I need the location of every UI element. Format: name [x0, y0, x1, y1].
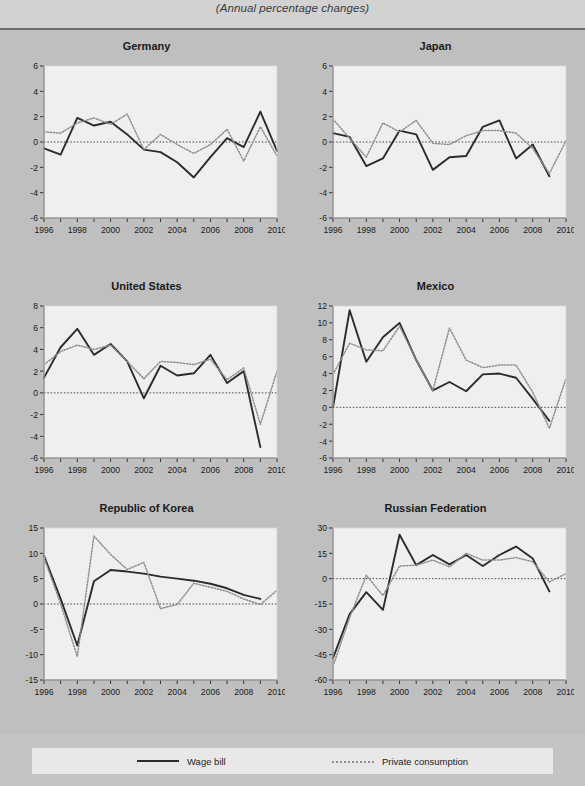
y-tick-label: 6	[33, 323, 38, 333]
x-tick-label: 1998	[357, 225, 376, 235]
x-tick-label: 1996	[323, 225, 342, 235]
x-tick-label: 2002	[134, 465, 153, 475]
x-tick-label: 2004	[168, 687, 187, 697]
panel-title-japan: Japan	[297, 40, 574, 52]
y-tick-label: 0	[33, 137, 38, 147]
y-tick-label: 0	[322, 574, 327, 584]
y-tick-label: -4	[319, 188, 327, 198]
y-tick-label: -5	[30, 625, 38, 635]
x-tick-label: 2008	[234, 465, 253, 475]
y-tick-label: 6	[322, 352, 327, 362]
x-tick-label: 2010	[267, 687, 285, 697]
y-tick-label: -45	[315, 650, 328, 660]
legend-band: Wage bill Private consumption	[0, 734, 585, 786]
chart-svg: -15-10-505101519961998200020022004200620…	[8, 520, 285, 710]
chart-svg: -6-4-20246199619982000200220042006200820…	[8, 58, 285, 248]
panel-title-russian-federation: Russian Federation	[297, 502, 574, 514]
y-tick-label: -60	[315, 675, 328, 685]
x-tick-label: 2008	[523, 687, 542, 697]
panel-russian-federation: Russian Federation -60-45-30-15015301996…	[297, 494, 574, 734]
x-tick-label: 2000	[101, 687, 120, 697]
y-tick-label: 0	[33, 388, 38, 398]
x-tick-label: 1998	[357, 465, 376, 475]
x-tick-label: 2006	[490, 687, 509, 697]
legend-box: Wage bill Private consumption	[32, 748, 553, 774]
panel-title-united-states: United States	[8, 280, 285, 292]
y-tick-label: -2	[319, 420, 327, 430]
panel-title-republic-of-korea: Republic of Korea	[8, 502, 285, 514]
chart-svg: -6-4-20246810121996199820002002200420062…	[297, 298, 574, 488]
x-tick-label: 1998	[68, 225, 87, 235]
x-tick-label: 2004	[168, 465, 187, 475]
dotted-line-icon	[332, 756, 374, 766]
x-tick-label: 2002	[134, 225, 153, 235]
x-tick-label: 2002	[423, 687, 442, 697]
panel-title-mexico: Mexico	[297, 280, 574, 292]
y-tick-label: -4	[319, 437, 327, 447]
x-tick-label: 1996	[34, 465, 53, 475]
plot-germany: -6-4-20246199619982000200220042006200820…	[8, 58, 285, 248]
y-tick-label: -30	[315, 625, 328, 635]
x-tick-label: 2000	[101, 225, 120, 235]
x-tick-label: 2010	[267, 225, 285, 235]
x-tick-label: 2000	[390, 465, 409, 475]
x-tick-label: 2008	[234, 687, 253, 697]
y-tick-label: 4	[33, 87, 38, 97]
legend-label-private-consumption: Private consumption	[382, 756, 468, 767]
x-tick-label: 2002	[423, 225, 442, 235]
solid-line-icon	[137, 756, 179, 766]
y-tick-label: 10	[317, 318, 327, 328]
x-tick-label: 2002	[134, 687, 153, 697]
y-tick-label: 0	[322, 137, 327, 147]
y-tick-label: -15	[26, 675, 39, 685]
chart-subtitle: (Annual percentage changes)	[0, 2, 585, 14]
plot-japan: -6-4-20246199619982000200220042006200820…	[297, 58, 574, 248]
y-tick-label: 4	[322, 87, 327, 97]
y-tick-label: -2	[30, 163, 38, 173]
x-tick-label: 2006	[201, 687, 220, 697]
x-tick-label: 2008	[234, 225, 253, 235]
chart-svg: -6-4-20246819961998200020022004200620082…	[8, 298, 285, 488]
y-tick-label: -6	[30, 453, 38, 463]
y-tick-label: 0	[322, 403, 327, 413]
y-tick-label: 2	[33, 112, 38, 122]
y-tick-label: 8	[33, 301, 38, 311]
y-tick-label: 30	[317, 523, 327, 533]
x-tick-label: 1996	[323, 465, 342, 475]
y-tick-label: 2	[322, 386, 327, 396]
y-tick-label: -2	[30, 410, 38, 420]
panel-japan: Japan -6-4-20246199619982000200220042006…	[297, 32, 574, 254]
x-tick-label: 2010	[556, 225, 574, 235]
y-tick-label: 0	[33, 599, 38, 609]
x-tick-label: 2000	[101, 465, 120, 475]
y-tick-label: 12	[317, 301, 327, 311]
x-tick-label: 1998	[68, 465, 87, 475]
chart-svg: -6-4-20246199619982000200220042006200820…	[297, 58, 574, 248]
x-tick-label: 2006	[201, 465, 220, 475]
y-tick-label: -6	[319, 213, 327, 223]
x-tick-label: 2006	[201, 225, 220, 235]
x-tick-label: 2000	[390, 687, 409, 697]
panel-republic-of-korea: Republic of Korea -15-10-505101519961998…	[8, 494, 285, 734]
y-tick-label: -10	[26, 650, 39, 660]
y-tick-label: 10	[28, 549, 38, 559]
x-tick-label: 2006	[490, 225, 509, 235]
charts-container: Germany -6-4-202461996199820002002200420…	[0, 32, 585, 734]
plot-russian-federation: -60-45-30-150153019961998200020022004200…	[297, 520, 574, 710]
y-tick-label: -15	[315, 599, 328, 609]
x-tick-label: 1998	[68, 687, 87, 697]
y-tick-label: -6	[30, 213, 38, 223]
y-tick-label: -4	[30, 188, 38, 198]
x-tick-label: 2000	[390, 225, 409, 235]
x-tick-label: 2004	[457, 465, 476, 475]
y-tick-label: 4	[33, 345, 38, 355]
subtitle-band: (Annual percentage changes)	[0, 0, 585, 30]
x-tick-label: 2008	[523, 225, 542, 235]
plot-mexico: -6-4-20246810121996199820002002200420062…	[297, 298, 574, 488]
x-tick-label: 2006	[490, 465, 509, 475]
plot-united-states: -6-4-20246819961998200020022004200620082…	[8, 298, 285, 488]
x-tick-label: 2010	[556, 465, 574, 475]
y-tick-label: 6	[33, 61, 38, 71]
y-tick-label: -6	[319, 453, 327, 463]
panel-germany: Germany -6-4-202461996199820002002200420…	[8, 32, 285, 254]
